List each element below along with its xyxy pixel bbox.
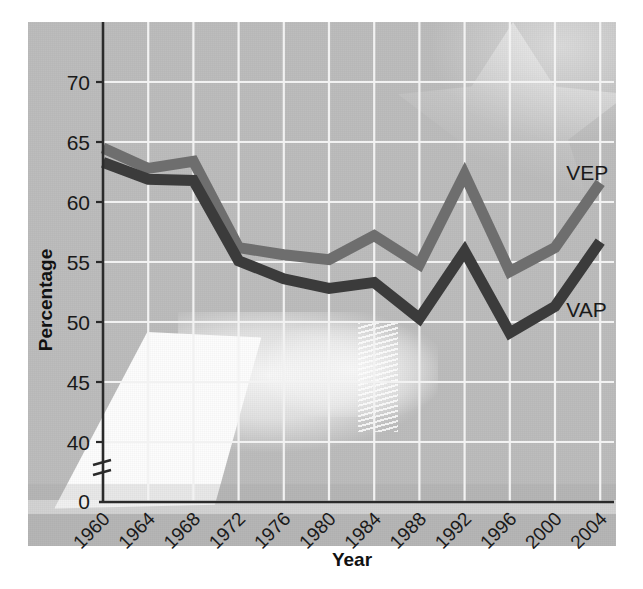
y-tick-label: 45	[67, 371, 90, 394]
y-tick-label: 70	[67, 71, 90, 94]
x-tick-label: 1972	[205, 508, 250, 553]
x-tick-label: 1980	[295, 508, 340, 553]
x-tick-label: 1960	[69, 508, 114, 553]
x-tick-label: 1976	[250, 508, 295, 553]
y-tick-label: 65	[67, 131, 90, 154]
chart-figure: 040455055606570 196019641968197219761980…	[0, 0, 643, 589]
x-tick-labels-group: 1960196419681972197619801984198819921996…	[69, 508, 611, 553]
y-tick-labels-group: 040455055606570	[67, 71, 90, 513]
series-label-vep: VEP	[566, 161, 608, 184]
x-tick-label: 1968	[159, 508, 204, 553]
y-tick-label: 55	[67, 251, 90, 274]
x-tick-label: 1964	[114, 508, 159, 553]
x-tick-label: 1988	[385, 508, 430, 553]
line-chart: 040455055606570 196019641968197219761980…	[0, 0, 643, 589]
x-axis-title: Year	[332, 549, 373, 570]
x-tick-label: 1992	[431, 508, 476, 553]
x-tick-label: 2000	[521, 508, 566, 553]
y-tick-label: 0	[78, 490, 90, 513]
x-tick-label: 1984	[340, 508, 385, 553]
y-tick-label: 40	[67, 431, 90, 454]
data-line-vep	[103, 148, 600, 272]
x-tick-label: 1996	[476, 508, 521, 553]
data-series-group	[103, 148, 600, 333]
y-tick-label: 50	[67, 311, 90, 334]
y-tick-label: 60	[67, 191, 90, 214]
x-tick-label: 2004	[566, 508, 611, 553]
series-label-vap: VAP	[566, 298, 606, 321]
y-axis-title: Percentage	[35, 249, 56, 351]
